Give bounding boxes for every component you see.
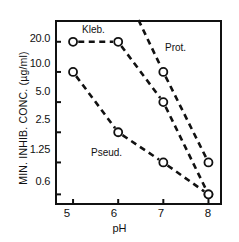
data-point-marker xyxy=(159,158,167,166)
data-point-marker xyxy=(114,38,122,46)
series-line-segment xyxy=(139,20,162,67)
series-label-prot: Prot. xyxy=(165,42,186,53)
data-point-marker xyxy=(159,68,167,76)
series-line-segment xyxy=(76,76,115,128)
data-point-marker xyxy=(69,68,77,76)
data-point-marker xyxy=(69,38,77,46)
data-series-group xyxy=(69,20,212,198)
data-point-marker xyxy=(159,98,167,106)
chart-data-layer xyxy=(0,0,239,242)
series-line-segment xyxy=(168,165,205,191)
data-point-marker xyxy=(114,128,122,136)
series-label-pseud: Pseud. xyxy=(91,147,122,158)
data-point-marker xyxy=(204,158,212,166)
series-line-segment xyxy=(123,135,159,159)
data-point-marker xyxy=(204,190,212,198)
axis-tick-marks xyxy=(55,42,208,205)
chart-figure: 20.0 10.0 5.0 2.5 1.25 0.6 MIN. INHIB. C… xyxy=(0,0,239,242)
series-label-kleb: Kleb. xyxy=(82,24,105,35)
